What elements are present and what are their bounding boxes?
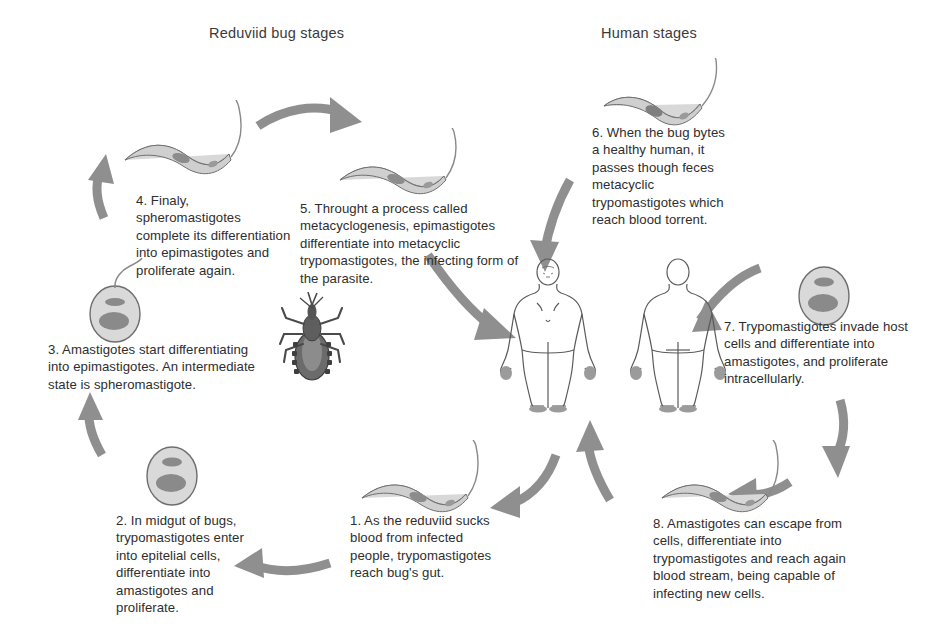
section-title-human: Human stages [601,25,697,41]
step-5-text: 5. Throught a process called metacycloge… [300,200,528,287]
step-8-text: 8. Amastigotes can escape from cells, di… [653,515,853,602]
trypomastigote-stage-1-icon [352,440,502,520]
step-3-text: 3. Amastigotes start differentiating int… [48,341,270,393]
step-6-text: 6. When the bug bytes a healthy human, i… [592,124,728,228]
human-posterior-figure [622,258,734,414]
step-1-text: 1. As the reduviid sucks blood from infe… [350,512,492,582]
trypomastigote-stage-8-icon [652,440,802,520]
section-title-reduviid: Reduviid bug stages [209,25,344,41]
epimastigote-stage-4-icon [113,100,263,186]
arrow-step7-to-step8 [822,400,850,478]
step-2-text: 2. In midgut of bugs, trypomastigotes en… [116,512,266,616]
life-cycle-diagram: Reduviid bug stages Human stages 4. Fina… [0,0,943,632]
arrow-step8-to-human [576,420,610,500]
arrow-step2-to-step3 [78,392,103,455]
reduviid-bug-icon [278,292,346,388]
step-7-text: 7. Trypomastigotes invade host cells and… [724,318,920,388]
amastigote-stage-2-icon [134,438,210,512]
epimastigote-stage-5-icon [330,128,480,208]
step-4-text: 4. Finaly, spheromastigotes complete its… [136,192,296,279]
arrow-step3-to-step4 [88,154,114,218]
